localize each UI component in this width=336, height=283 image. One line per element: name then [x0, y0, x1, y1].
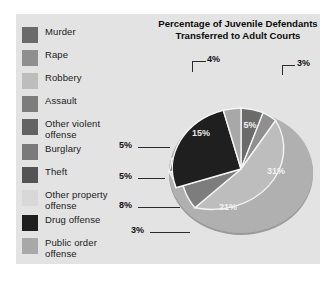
legend-swatch-rape [22, 50, 38, 66]
pie-value-other-property-offense: 5% [119, 140, 132, 150]
legend-item-murder: Murder [22, 26, 150, 46]
legend-label-assault: Assault [45, 95, 77, 107]
leader-line-public-order-offense-v [192, 61, 193, 72]
leader-line-other-property-offense [138, 147, 170, 148]
pie-value-drug-offense: 15% [192, 128, 210, 138]
legend-label-public-order-offense: Public order offense [45, 237, 97, 259]
legend-swatch-robbery [22, 73, 38, 89]
legend-label-burglary: Burglary [45, 143, 81, 155]
legend-item-robbery: Robbery [22, 72, 150, 92]
leader-line-theft [138, 178, 165, 179]
legend-label-murder: Murder [45, 26, 76, 38]
legend-label-rape: Rape [45, 49, 68, 61]
pie-value-murder: 5% [243, 120, 256, 130]
pie-value-other-violent-offense: 3% [131, 225, 144, 235]
legend-swatch-burglary [22, 144, 38, 160]
legend-item-public-order-offense: Public order offense [22, 237, 150, 259]
legend-swatch-other-property-offense [22, 190, 38, 206]
leader-line-rape-h [282, 65, 295, 66]
pie-chart-svg: 5% 31% 21% 15% [146, 14, 320, 264]
legend-swatch-murder [22, 27, 38, 43]
pie-chart: 5% 31% 21% 15% 4% 3% 5% 5% 8% 3% [146, 14, 320, 264]
pie-value-rape: 3% [297, 58, 310, 68]
legend-swatch-drug-offense [22, 215, 38, 231]
legend-item-assault: Assault [22, 95, 150, 115]
leader-line-other-violent-offense [150, 232, 190, 233]
legend-label-other-property-offense: Other property offense [45, 189, 108, 211]
pie-value-assault: 21% [219, 202, 237, 212]
legend-item-rape: Rape [22, 49, 150, 69]
legend-swatch-assault [22, 96, 38, 112]
legend-label-drug-offense: Drug offense [45, 214, 100, 226]
pie-value-public-order-offense: 4% [207, 54, 220, 64]
pie-value-burglary: 8% [119, 200, 132, 210]
leader-line-public-order-offense-h [192, 61, 206, 62]
pie-value-theft: 5% [119, 171, 132, 181]
legend-item-other-violent-offense: Other violent offense [22, 118, 150, 140]
leader-line-burglary [138, 207, 180, 208]
legend-label-theft: Theft [45, 166, 67, 178]
leader-line-rape-v [282, 65, 283, 75]
legend-swatch-theft [22, 167, 38, 183]
chart-panel: Percentage of Juvenile Defendants Transf… [16, 14, 320, 264]
legend-swatch-other-violent-offense [22, 119, 38, 135]
pie-value-robbery: 31% [267, 166, 285, 176]
legend-swatch-public-order-offense [22, 238, 38, 254]
legend-label-robbery: Robbery [45, 72, 82, 84]
legend-label-other-violent-offense: Other violent offense [45, 118, 100, 140]
